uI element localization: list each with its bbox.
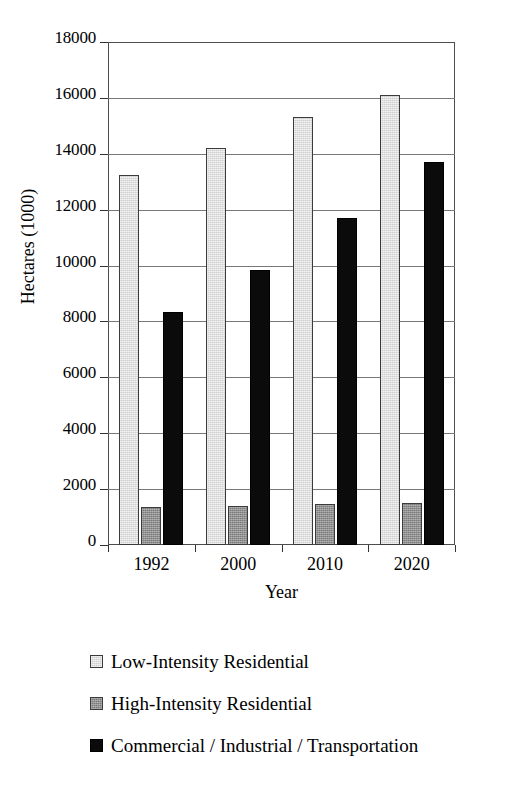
y-axis-tick-mark xyxy=(100,545,108,546)
x-axis-tick-label: 2010 xyxy=(285,554,365,575)
y-axis-tick-mark xyxy=(100,266,108,267)
y-axis-tick-mark xyxy=(100,377,108,378)
legend-item-0[interactable]: Low-Intensity Residential xyxy=(90,640,510,682)
bar-2010-series-2[interactable] xyxy=(337,218,357,545)
legend-item-2[interactable]: Commercial / Industrial / Transportation xyxy=(90,724,510,766)
x-axis-tick-mark xyxy=(108,545,109,552)
y-axis-tick-label: 8000 xyxy=(63,308,96,325)
x-axis-tick-mark xyxy=(195,545,196,552)
y-axis-tick-label: 6000 xyxy=(63,364,96,381)
bar-2020-series-2[interactable] xyxy=(424,162,444,545)
y-axis-tick-label: 10000 xyxy=(54,253,96,270)
bar-1992-series-0[interactable] xyxy=(119,175,139,545)
y-axis-tick-mark xyxy=(100,321,108,322)
legend-swatch-icon xyxy=(90,655,103,668)
plot-area xyxy=(108,42,455,545)
legend-item-1[interactable]: High-Intensity Residential xyxy=(90,682,510,724)
x-axis-title: Year xyxy=(108,582,455,603)
y-axis-tick-label: 18000 xyxy=(54,29,96,46)
x-axis-tick-label: 2020 xyxy=(372,554,452,575)
y-axis-tick-label: 14000 xyxy=(54,141,96,158)
y-axis-tick-label: 16000 xyxy=(54,85,96,102)
bar-chart-figure: 0200040006000800010000120001400016000180… xyxy=(0,0,514,788)
y-axis-tick-mark xyxy=(100,210,108,211)
y-axis-tick-label: 2000 xyxy=(63,476,96,493)
bar-2000-series-1[interactable] xyxy=(228,506,248,545)
bar-2010-series-0[interactable] xyxy=(293,117,313,545)
bars-layer xyxy=(108,42,455,545)
bar-2020-series-0[interactable] xyxy=(380,95,400,545)
y-axis-tick-mark xyxy=(100,42,108,43)
legend-swatch-icon xyxy=(90,739,103,752)
x-axis-tick-mark xyxy=(282,545,283,552)
x-axis-tick-mark xyxy=(368,545,369,552)
y-axis-tick-mark xyxy=(100,98,108,99)
bar-1992-series-1[interactable] xyxy=(141,507,161,545)
x-axis: 1992200020102020 xyxy=(108,545,455,585)
y-axis-tick-mark xyxy=(100,489,108,490)
bar-2000-series-0[interactable] xyxy=(206,148,226,545)
bar-2020-series-1[interactable] xyxy=(402,503,422,545)
bar-1992-series-2[interactable] xyxy=(163,312,183,545)
x-axis-tick-mark xyxy=(455,545,456,552)
legend-item-label: Commercial / Industrial / Transportation xyxy=(111,736,418,755)
bar-2010-series-1[interactable] xyxy=(315,504,335,545)
chart-legend: Low-Intensity ResidentialHigh-Intensity … xyxy=(90,640,510,766)
y-axis-tick-label: 0 xyxy=(88,532,96,549)
y-axis-tick-mark xyxy=(100,154,108,155)
x-axis-tick-label: 1992 xyxy=(111,554,191,575)
y-axis-title: Hectares (1000) xyxy=(18,127,39,367)
legend-item-label: High-Intensity Residential xyxy=(111,694,312,713)
legend-item-label: Low-Intensity Residential xyxy=(111,652,309,671)
y-axis-tick-mark xyxy=(100,433,108,434)
legend-swatch-icon xyxy=(90,697,103,710)
y-axis-tick-label: 12000 xyxy=(54,197,96,214)
y-axis-tick-label: 4000 xyxy=(63,420,96,437)
x-axis-tick-label: 2000 xyxy=(198,554,278,575)
y-axis: 0200040006000800010000120001400016000180… xyxy=(0,42,108,545)
bar-2000-series-2[interactable] xyxy=(250,270,270,545)
